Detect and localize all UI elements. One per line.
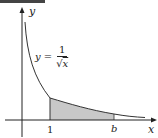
formula-denominator: √x <box>56 57 68 69</box>
formula-fraction: 1 √x <box>56 44 68 69</box>
y-axis-arrow-icon <box>20 7 25 13</box>
formula-radicand: x <box>63 58 69 69</box>
x-tick-b: b <box>111 124 117 134</box>
curve <box>25 22 145 118</box>
graph-canvas <box>0 0 158 138</box>
x-axis-arrow-icon <box>151 118 157 123</box>
formula-lhs: y = <box>35 51 52 62</box>
x-tick-1: 1 <box>47 125 53 135</box>
y-axis-label: y <box>29 6 35 17</box>
function-formula: y = 1 √x <box>35 44 68 69</box>
x-axis-label: x <box>148 124 154 135</box>
formula-numerator: 1 <box>57 44 67 57</box>
